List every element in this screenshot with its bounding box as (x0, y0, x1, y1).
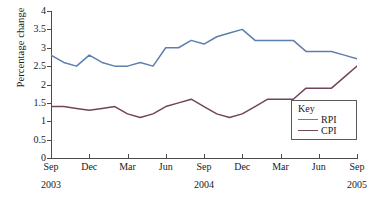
y-tick-mark (47, 158, 51, 159)
y-tick-label: 2.5 (24, 61, 46, 71)
x-axis-year-labels: 200320042005 (0, 180, 367, 194)
x-tick-label: Mar (108, 162, 148, 172)
legend-entries: RPICPI (298, 114, 356, 136)
y-tick-label: 3.5 (24, 24, 46, 34)
y-tick-label: 2 (24, 80, 46, 90)
legend-item-cpi: CPI (298, 125, 356, 136)
year-label: 2005 (335, 180, 372, 190)
year-label: 2003 (29, 180, 73, 190)
y-tick-label: 3 (24, 43, 46, 53)
x-tick-label: Sep (337, 162, 372, 172)
x-tick-label: Jun (146, 162, 186, 172)
x-tick-label: Sep (184, 162, 224, 172)
legend-label: CPI (321, 125, 337, 136)
x-tick-label: Jun (299, 162, 339, 172)
x-tick-label: Mar (261, 162, 301, 172)
x-tick-label: Sep (31, 162, 71, 172)
y-tick-label: 0.5 (24, 135, 46, 145)
legend-swatch-icon (298, 119, 318, 120)
x-tick-label: Dec (69, 162, 109, 172)
year-label: 2004 (182, 180, 226, 190)
x-axis-tick-labels: SepDecMarJunSepDecMarJunSep (0, 162, 367, 176)
series-line-rpi (51, 29, 357, 66)
legend-title: Key (298, 103, 356, 114)
y-tick-label: 4 (24, 6, 46, 16)
legend-item-rpi: RPI (298, 114, 356, 125)
y-tick-label: 1.5 (24, 98, 46, 108)
x-axis-line (51, 158, 358, 159)
legend-box: Key RPICPI (291, 100, 357, 140)
legend-swatch-icon (298, 130, 318, 131)
x-tick-label: Dec (222, 162, 262, 172)
y-tick-label: 1 (24, 116, 46, 126)
x-tick-mark (357, 154, 358, 158)
legend-label: RPI (321, 114, 337, 125)
